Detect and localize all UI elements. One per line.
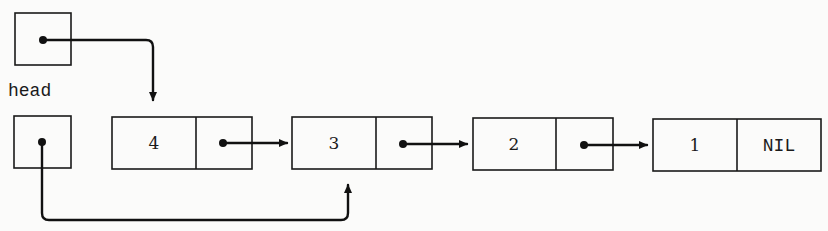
top-pointer-arrow — [43, 40, 153, 100]
nil-label: NIL — [763, 136, 795, 156]
list-node: 1 NIL — [653, 119, 821, 171]
linked-list-diagram: head 4 3 2 1 NIL — [0, 0, 828, 231]
head-pointer-arrow — [42, 142, 348, 220]
node-key: 4 — [149, 133, 160, 153]
node-key: 2 — [509, 134, 520, 154]
node-key: 1 — [690, 135, 701, 155]
node-key: 3 — [329, 133, 340, 153]
head-label: head — [8, 81, 51, 101]
